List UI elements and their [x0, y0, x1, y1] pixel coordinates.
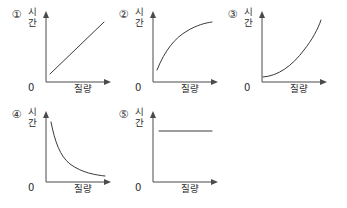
top-edge-artifact	[287, 0, 341, 4]
graph-options-grid: ① 시 간 0 질량 ② 시 간 0 질량 ③ 시 간 0 질량	[0, 0, 347, 208]
x-axis-arrow-icon-2	[211, 79, 218, 85]
x-axis-arrow-icon-3	[320, 79, 327, 85]
y-axis-arrow-icon-5	[150, 111, 156, 118]
curve-2	[157, 22, 212, 70]
x-axis-arrow-icon-4	[104, 179, 111, 185]
y-axis-arrow-icon-2	[150, 11, 156, 18]
option-panel-2[interactable]: ② 시 간 0 질량	[113, 4, 221, 102]
plot-area-1	[6, 4, 114, 102]
curve-3	[263, 20, 321, 77]
option-panel-4[interactable]: ④ 시 간 0 질량	[6, 104, 114, 202]
y-axis-arrow-icon-3	[259, 11, 265, 18]
option-panel-3[interactable]: ③ 시 간 0 질량	[222, 4, 330, 102]
x-axis-arrow-icon-5	[211, 179, 218, 185]
plot-area-4	[6, 104, 114, 202]
plot-area-3	[222, 4, 330, 102]
curve-4	[51, 122, 105, 176]
option-panel-5[interactable]: ⑤ 시 간 0 질량	[113, 104, 221, 202]
plot-area-5	[113, 104, 221, 202]
y-axis-arrow-icon-4	[43, 111, 49, 118]
plot-area-2	[113, 4, 221, 102]
x-axis-arrow-icon-1	[104, 79, 111, 85]
y-axis-arrow-icon-1	[43, 11, 49, 18]
option-panel-1[interactable]: ① 시 간 0 질량	[6, 4, 114, 102]
curve-1	[50, 22, 104, 74]
